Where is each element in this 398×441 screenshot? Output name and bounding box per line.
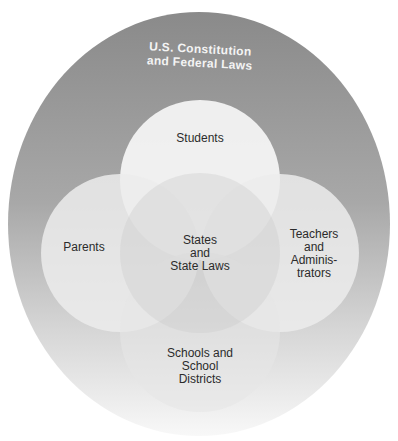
states-line3: State Laws <box>170 260 229 273</box>
students-text: Students <box>176 132 223 145</box>
states-label: States and State Laws <box>170 234 229 273</box>
schools-label: Schools and School Districts <box>167 347 233 386</box>
parents-label: Parents <box>63 241 104 254</box>
teachers-label: Teachers and Adminis- trators <box>290 228 339 280</box>
teachers-line4: trators <box>290 267 339 280</box>
parents-text: Parents <box>63 241 104 254</box>
schools-line3: Districts <box>167 373 233 386</box>
outer-label: U.S. Constitution and Federal Laws <box>147 39 254 72</box>
students-label: Students <box>176 132 223 145</box>
